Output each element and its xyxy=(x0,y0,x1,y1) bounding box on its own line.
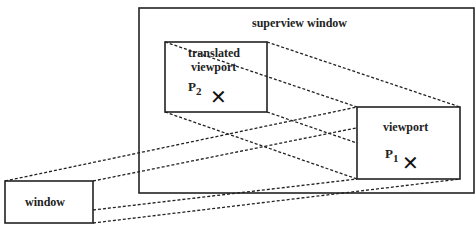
p2-marker-icon: ✕ xyxy=(210,87,227,107)
point-p2-label: P2 xyxy=(188,80,201,98)
translated-label: translated xyxy=(188,47,240,60)
point-p1-label: P1 xyxy=(385,147,398,165)
viewport-label: viewport xyxy=(383,121,428,134)
diagram-lines xyxy=(0,0,476,228)
translated-viewport-label: viewport xyxy=(191,61,236,74)
superview-window-label: superview window xyxy=(252,17,347,30)
p1-marker-icon: ✕ xyxy=(402,153,419,173)
window-label: window xyxy=(25,196,65,209)
diagram-canvas: superview window translated viewport P2 … xyxy=(0,0,476,228)
